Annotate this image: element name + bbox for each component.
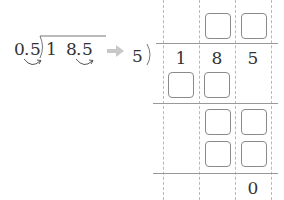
remainder-box-2[interactable] <box>241 109 267 135</box>
dividend-decimal-point: . <box>76 41 81 58</box>
division-bracket <box>144 43 160 67</box>
grid-column-line <box>199 0 200 200</box>
dividend-frac: 5 <box>82 41 93 58</box>
divisor: 5 <box>132 48 143 65</box>
division-rule <box>156 43 278 44</box>
dividend-digit: 8 <box>199 50 235 67</box>
grid-column-line <box>235 0 236 200</box>
dividend-digit-1: 1 <box>46 41 57 58</box>
decimal-shift-arrow-icon <box>20 58 44 68</box>
product-box-1[interactable] <box>168 72 194 98</box>
decimal-shift-arrow-icon <box>72 58 96 68</box>
dividend-digit: 5 <box>235 50 271 67</box>
dividend-digit: 1 <box>163 50 199 67</box>
right-arrow-icon <box>107 45 125 57</box>
grid-column-line <box>271 0 272 200</box>
divisor-decimal-point: . <box>24 41 29 58</box>
quotient-box-tens[interactable] <box>205 13 231 39</box>
product-box-3[interactable] <box>205 141 231 167</box>
product-box-4[interactable] <box>241 141 267 167</box>
remainder-box-1[interactable] <box>205 109 231 135</box>
quotient-box-ones[interactable] <box>241 13 267 39</box>
grid-column-line <box>163 0 164 200</box>
subtraction-rule <box>153 103 278 104</box>
final-remainder: 0 <box>235 180 271 197</box>
subtraction-rule <box>153 173 278 174</box>
product-box-2[interactable] <box>204 72 230 98</box>
